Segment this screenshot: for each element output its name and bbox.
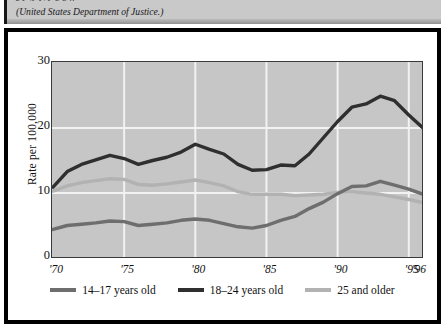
legend-item[interactable]: 25 and older <box>305 284 394 296</box>
legend-label: 25 and older <box>337 284 394 296</box>
caption-band-shadow <box>7 19 441 24</box>
legend-swatch-icon <box>50 288 76 292</box>
x-tick-label: '96 <box>412 263 426 275</box>
plot-area <box>51 61 423 258</box>
legend-item[interactable]: 14–17 years old <box>50 284 155 296</box>
figure-page: g y ,p y, y g g ff (United States Depart… <box>0 0 445 326</box>
legend-label: 18–24 years old <box>210 284 283 296</box>
figure-frame: Rate per 100,000 0102030 '70'75'80'85'90… <box>4 28 441 324</box>
x-tick-label: '90 <box>334 263 348 275</box>
line-chart: Rate per 100,000 0102030 '70'75'80'85'90… <box>8 32 437 320</box>
x-tick-label: '75 <box>120 263 134 275</box>
y-tick-label: 20 <box>24 118 50 133</box>
y-axis-ticks: 0102030 <box>8 32 50 320</box>
series-line <box>53 179 423 203</box>
series-line <box>53 96 423 187</box>
y-tick-label: 30 <box>24 53 50 68</box>
figure-caption-band: g y ,p y, y g g ff (United States Depart… <box>4 0 441 24</box>
caption-line-2: (United States Department of Justice.) <box>16 6 163 17</box>
x-tick-label: '85 <box>262 263 276 275</box>
legend-swatch-icon <box>178 288 204 292</box>
y-tick-label: 0 <box>24 248 50 263</box>
x-tick-label: '80 <box>191 263 205 275</box>
y-tick-label: 10 <box>24 183 50 198</box>
chart-legend: 14–17 years old18–24 years old25 and old… <box>8 284 437 296</box>
caption-line-1: g y ,p y, y g g ff <box>16 0 76 1</box>
series-line <box>53 181 423 229</box>
legend-label: 14–17 years old <box>82 284 155 296</box>
legend-item[interactable]: 18–24 years old <box>178 284 283 296</box>
x-tick-label: '70 <box>49 263 63 275</box>
plot-svg <box>52 62 423 258</box>
legend-swatch-icon <box>305 288 331 292</box>
